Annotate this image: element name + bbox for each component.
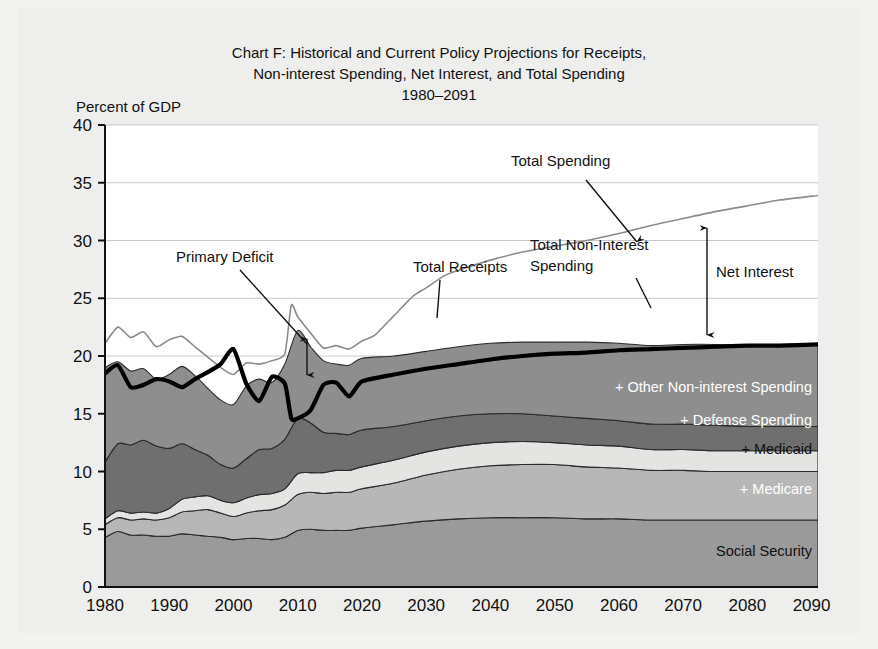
y-axis-label: Percent of GDP	[76, 98, 181, 115]
annotation-text: Total Non-Interest	[530, 236, 649, 253]
annotation-text: Primary Deficit	[176, 248, 274, 265]
y-tick-label-20: 20	[73, 347, 92, 366]
series-label-defense-spending: + Defense Spending	[680, 412, 812, 428]
series-label-medicaid: + Medicaid	[741, 441, 812, 457]
y-tick-label-0: 0	[83, 578, 92, 597]
x-tick-label-2080: 2080	[728, 596, 766, 615]
x-tick-label-1980: 1980	[86, 596, 124, 615]
x-tick-label-2050: 2050	[536, 596, 574, 615]
x-tick-label-2030: 2030	[407, 596, 445, 615]
y-tick-label-40: 40	[73, 116, 92, 135]
annotation-text: Total Receipts	[413, 258, 507, 275]
x-tick-label-2040: 2040	[471, 596, 509, 615]
series-label-social-security: Social Security	[716, 543, 813, 559]
title-line-1: Chart F: Historical and Current Policy P…	[232, 44, 646, 61]
annotation-text: Net Interest	[716, 263, 794, 280]
chart-page: Chart F: Historical and Current Policy P…	[0, 0, 878, 649]
y-tick-label-30: 30	[73, 232, 92, 251]
chart-title: Chart F: Historical and Current Policy P…	[232, 44, 646, 103]
series-label-medicare: + Medicare	[740, 481, 812, 497]
x-tick-label-2020: 2020	[343, 596, 381, 615]
y-tick-label-15: 15	[73, 405, 92, 424]
series-label-other-non-interest-spending: + Other Non-interest Spending	[615, 379, 812, 395]
y-tick-label-5: 5	[83, 520, 92, 539]
chart-figure: Chart F: Historical and Current Policy P…	[0, 0, 878, 649]
annotation-text: Spending	[530, 257, 593, 274]
x-tick-labels: 1980199020002010202020302040205020602070…	[86, 596, 830, 615]
title-line-3: 1980–2091	[401, 86, 476, 103]
title-line-2: Non-interest Spending, Net Interest, and…	[253, 65, 625, 82]
annotation-text: Total Spending	[511, 152, 610, 169]
y-tick-label-35: 35	[73, 174, 92, 193]
x-tick-label-2070: 2070	[664, 596, 702, 615]
x-tick-label-2010: 2010	[279, 596, 317, 615]
y-tick-labels: 0510152025303540	[73, 116, 105, 597]
x-tick-label-2090: 2090	[793, 596, 831, 615]
y-tick-label-10: 10	[73, 463, 92, 482]
x-tick-label-1990: 1990	[150, 596, 188, 615]
x-tick-label-2060: 2060	[600, 596, 638, 615]
x-tick-label-2000: 2000	[215, 596, 253, 615]
y-tick-label-25: 25	[73, 289, 92, 308]
